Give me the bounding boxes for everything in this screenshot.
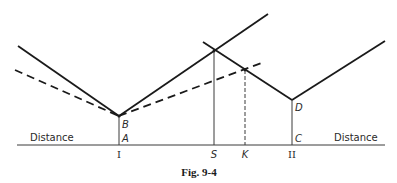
- tick-label-I: I: [117, 149, 121, 160]
- figure-caption: Fig. 9-4: [181, 166, 217, 178]
- solid-line-D-left: [203, 42, 292, 100]
- tick-label-K: K: [242, 149, 250, 160]
- point-label-A: A: [121, 133, 129, 144]
- tick-label-S: S: [211, 149, 218, 160]
- intersection-S-dot: [213, 50, 216, 53]
- intersection-K-dot: [244, 69, 247, 72]
- point-label-B: B: [122, 119, 129, 130]
- tick-label-II: II: [288, 149, 296, 160]
- figure-9-4: B A D C Distance Distance I S K II Fig. …: [0, 0, 397, 183]
- distance-label-right: Distance: [334, 132, 378, 143]
- point-label-C: C: [295, 133, 302, 144]
- vertex-B-dot: [117, 114, 120, 117]
- distance-label-left: Distance: [30, 132, 74, 143]
- dashed-line-B-left: [15, 70, 119, 116]
- solid-line-D-right: [292, 41, 385, 100]
- point-label-D: D: [295, 102, 303, 113]
- dashed-line-B-right: [119, 62, 264, 116]
- solid-line-B-right: [119, 14, 268, 116]
- solid-line-B-left: [18, 46, 119, 116]
